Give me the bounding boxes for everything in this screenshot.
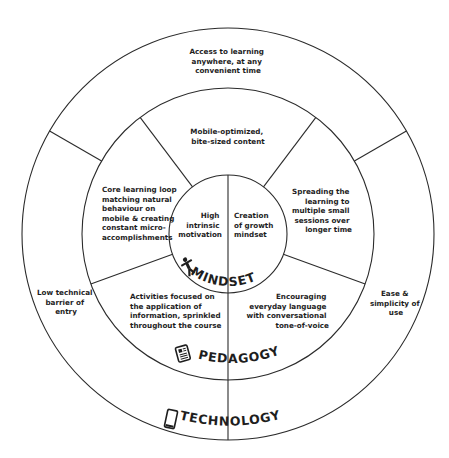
outer-spoke [354, 131, 406, 161]
middle-spoke [283, 254, 365, 284]
technology-label: TECHNOLOGY [179, 407, 282, 429]
outer-segment-top: Access to learning anywhere, at any conv… [190, 47, 267, 75]
pedagogy-label: PEDAGOGY [197, 343, 282, 366]
middle-spoke [264, 117, 316, 186]
inner-segment-right: Creation of growth mindset [234, 211, 276, 239]
document-icon [175, 345, 190, 363]
middle-spoke [91, 254, 173, 284]
outer-segment-right: Ease & simplicity of use [370, 289, 422, 317]
inner-segment-left: High intrinsic motivation [178, 211, 222, 239]
middle-segment-top: Mobile-optimized, bite-sized content [190, 127, 265, 146]
middle-spoke [140, 117, 192, 186]
learning-design-diagram: High intrinsic motivation Creation of gr… [0, 0, 449, 458]
middle-segment-bottom-left: Activities focused on the application of… [130, 292, 223, 330]
middle-segment-bottom-right: Encouraging everyday language with conve… [247, 292, 330, 330]
outer-spoke [50, 131, 102, 161]
outer-segment-left: Low technical barrier of entry [37, 288, 95, 316]
middle-segment-right: Spreading the learning to multiple small… [292, 187, 352, 234]
smartphone-icon [164, 409, 178, 429]
middle-segment-left: Core learning loop matching natural beha… [102, 185, 179, 242]
